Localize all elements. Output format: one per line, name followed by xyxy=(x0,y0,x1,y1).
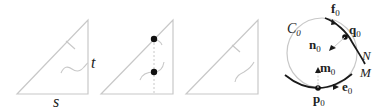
panel-2 xyxy=(101,20,173,94)
label-n-curve: N xyxy=(361,48,372,63)
diagram-canvas: t s C0 f0 q0 n xyxy=(0,0,384,112)
label-p0: p0 xyxy=(313,91,325,108)
label-c0: C0 xyxy=(287,21,301,38)
label-n0: n0 xyxy=(309,37,321,54)
label-t: t xyxy=(91,54,96,71)
label-m0: m0 xyxy=(320,60,336,77)
label-q0: q0 xyxy=(349,22,361,39)
panel-4: C0 f0 q0 n0 m0 N M p0 e0 xyxy=(285,1,372,108)
curve-n xyxy=(325,18,365,64)
wavy-curve-1 xyxy=(61,63,88,73)
panel-3 xyxy=(186,20,258,94)
tick-mark-3 xyxy=(232,45,240,52)
point-lower xyxy=(151,69,157,75)
label-m-curve: M xyxy=(359,65,372,80)
label-f0: f0 xyxy=(331,1,340,18)
triangle-2 xyxy=(101,20,173,94)
label-e0: e0 xyxy=(342,79,353,96)
wavy-curve-3 xyxy=(235,62,254,82)
point-upper xyxy=(151,36,157,42)
normal-n0-line xyxy=(334,37,345,47)
tick-mark-1 xyxy=(66,41,75,49)
label-s: s xyxy=(53,93,59,110)
panel-1: t s xyxy=(17,20,96,110)
triangle-1 xyxy=(17,20,88,94)
triangle-3 xyxy=(186,20,258,94)
